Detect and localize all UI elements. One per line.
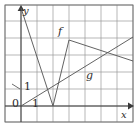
origin-tick-label: 0 bbox=[12, 98, 19, 109]
x-unit-tick-label: 1 bbox=[32, 98, 39, 109]
curve-g-label: g bbox=[86, 70, 93, 81]
x-axis-label: x bbox=[121, 110, 127, 120]
curve-f-label: f bbox=[58, 26, 62, 37]
y-axis-label: y bbox=[23, 6, 29, 16]
y-unit-tick-label: 1 bbox=[24, 81, 31, 92]
graph-figure: y x 0 1 1 f g bbox=[0, 0, 136, 127]
graph-canvas bbox=[0, 0, 136, 127]
